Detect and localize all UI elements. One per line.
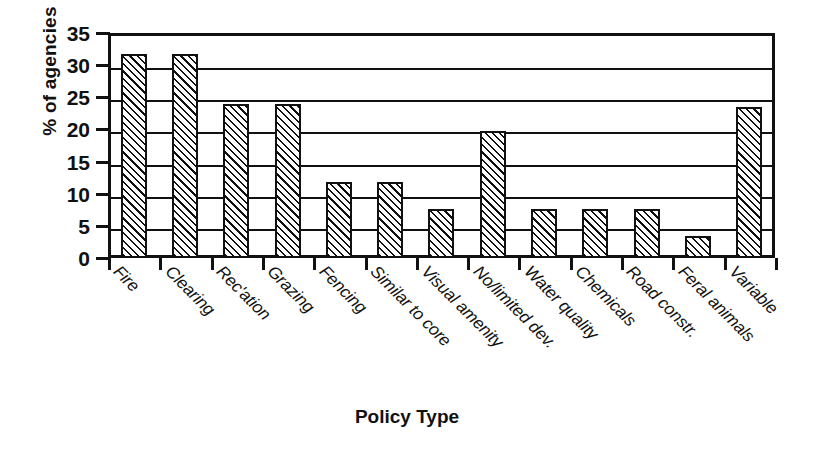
bar-slot [211,33,262,258]
bar-series [108,33,775,258]
y-tick-label: 5 [78,215,90,236]
bar [582,209,608,258]
y-tick-label: 30 [67,55,90,76]
x-tick-mark [775,258,778,270]
bar-slot [159,33,210,258]
bar [634,209,660,258]
bar-slot [108,33,159,258]
bar-slot [467,33,518,258]
bar [736,107,762,258]
x-tick-label: Rec'ation [212,262,275,325]
bar-slot [621,33,672,258]
y-tick-label: 15 [67,151,90,172]
y-tick-label: 0 [78,248,90,269]
x-axis-tick-labels: FireClearingRec'ationGrazingFencingSimil… [108,262,775,412]
bar-slot [724,33,775,258]
bar [172,54,198,258]
bar [531,209,557,258]
bar [377,182,403,258]
x-axis-title: Policy Type [0,406,814,428]
x-tick-label: Clearing [161,262,219,320]
bar-slot [365,33,416,258]
bar [121,54,147,258]
bar-slot [570,33,621,258]
bar-chart: % of agencies 05101520253035 FireClearin… [0,0,814,457]
bar [275,104,301,258]
bar-slot [313,33,364,258]
bar [428,209,454,259]
bar-slot [672,33,723,258]
bar-slot [518,33,569,258]
x-tick-label: Fencing [314,262,370,318]
x-tick-label: Fire [109,262,143,296]
bar [326,182,352,258]
y-axis-tick-labels: 05101520253035 [0,33,104,258]
y-tick-label: 20 [67,119,90,140]
y-tick-label: 25 [67,87,90,108]
bar [480,131,506,258]
bar [685,236,711,259]
bar-slot [416,33,467,258]
bar-slot [262,33,313,258]
bar [223,104,249,258]
y-tick-label: 10 [67,183,90,204]
y-tick-label: 35 [67,23,90,44]
